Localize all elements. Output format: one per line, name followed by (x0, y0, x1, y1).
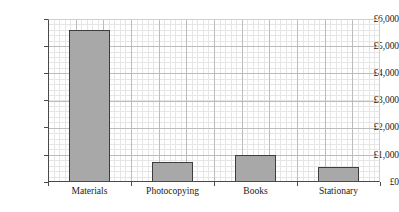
x-tick-label-materials: Materials (48, 186, 131, 197)
y-tick-label: £6,000 (357, 14, 399, 24)
y-tick-mark (44, 46, 49, 47)
bar-materials (69, 30, 110, 182)
y-tick-label: £3,000 (357, 95, 399, 105)
bar-stationary (318, 167, 359, 182)
y-tick-label: £2,000 (357, 122, 399, 132)
x-tick-label-stationary: Stationary (297, 186, 380, 197)
y-tick-mark (44, 19, 49, 20)
y-tick-mark (44, 155, 49, 156)
y-tick-label: £1,000 (357, 150, 399, 160)
y-tick-label: £4,000 (357, 68, 399, 78)
bar-chart: £6,000 £5,000 £4,000 £3,000 £2,000 £1,00… (0, 0, 399, 212)
y-tick-mark (44, 100, 49, 101)
y-tick-label: £5,000 (357, 41, 399, 51)
y-tick-mark (44, 127, 49, 128)
bar-books (235, 155, 276, 182)
x-tick-label-books: Books (214, 186, 297, 197)
bar-photocopying (152, 162, 193, 182)
x-tick-label-photocopying: Photocopying (131, 186, 214, 197)
y-tick-mark (44, 73, 49, 74)
x-tick-mark (380, 182, 381, 186)
